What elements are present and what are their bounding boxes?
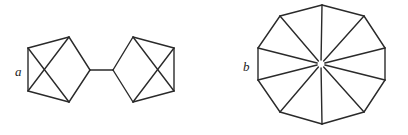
figure-b-decagon (258, 5, 385, 124)
decagon-spoke (321, 68, 322, 124)
figure-a-label: a (15, 64, 22, 79)
decagon-edge (364, 80, 385, 112)
decagon-edge (280, 112, 322, 124)
decagon-edge (322, 5, 364, 16)
decagon-spoke (280, 16, 318, 61)
bond-edge (133, 37, 174, 91)
bond-edge (28, 91, 69, 102)
bond-edge (133, 48, 174, 102)
decagon-spoke (321, 5, 322, 60)
bond-edge (28, 37, 69, 48)
figure-a-bicyclic-cage (28, 37, 174, 102)
decagon-edge (322, 112, 364, 124)
decagon-spoke (280, 67, 318, 112)
figure-b-label: b (243, 59, 250, 74)
bond-edge (28, 37, 69, 91)
bond-edge (69, 37, 90, 70)
bond-edge (69, 70, 90, 102)
decagon-edge (364, 16, 385, 48)
decagon-edge (280, 5, 322, 16)
bond-edge (28, 48, 69, 102)
bond-edge (133, 37, 174, 48)
decagon-spoke (258, 48, 317, 63)
diagram-canvas: a b (0, 0, 408, 135)
bond-edge (113, 70, 133, 102)
decagon-spoke (258, 65, 317, 80)
bond-edge (113, 37, 133, 70)
decagon-edge (258, 80, 280, 112)
bond-edge (133, 91, 174, 102)
decagon-edge (258, 16, 280, 48)
